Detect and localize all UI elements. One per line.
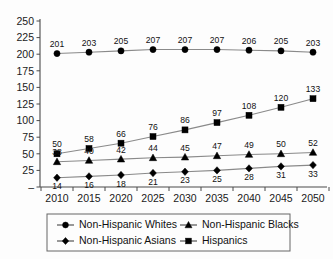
legend-item[interactable]: Hispanics <box>180 234 248 246</box>
data-point-marker-square <box>278 104 284 110</box>
x-axis-tick-label: 2035 <box>205 192 229 204</box>
data-point-label: 14 <box>52 181 62 191</box>
data-point-label: 201 <box>50 39 65 49</box>
x-axis-tick-label: 2010 <box>45 192 69 204</box>
data-point-marker-square <box>214 120 220 126</box>
data-point-marker-square <box>150 134 156 140</box>
y-axis-tick-label: 25 <box>22 164 34 176</box>
data-point-marker-circle <box>63 222 69 228</box>
y-axis-tick-label: 100 <box>16 114 34 126</box>
data-point-label: 21 <box>148 177 158 187</box>
y-axis-tick-label: 150 <box>16 81 34 93</box>
data-point-marker-circle <box>278 48 284 54</box>
data-point-label: 203 <box>82 38 97 48</box>
legend-group: Non-Hispanic WhitesNon-Hispanic BlacksNo… <box>47 214 299 251</box>
y-axis-tick-label: 175 <box>16 65 34 77</box>
data-point-label: 207 <box>210 35 225 45</box>
data-point-marker-circle <box>86 49 92 55</box>
data-point-label: 203 <box>306 38 321 48</box>
y-axis-tick-label: 75 <box>22 131 34 143</box>
x-axis-tick-label: 2015 <box>77 192 101 204</box>
legend-label: Hispanics <box>202 234 248 246</box>
series-group <box>53 46 316 181</box>
x-axis-tick-label: 2050 <box>301 192 325 204</box>
data-point-label: 207 <box>178 35 193 45</box>
legend-label: Non-Hispanic Blacks <box>202 218 299 230</box>
data-point-label: 33 <box>308 169 318 179</box>
data-point-label: 18 <box>116 179 126 189</box>
data-point-label: 86 <box>180 115 190 125</box>
legend-item[interactable]: Non-Hispanic Blacks <box>180 218 299 230</box>
data-point-label: 108 <box>242 101 257 111</box>
legend-item[interactable]: Non-Hispanic Asians <box>57 234 176 246</box>
y-axis-tick-label: 225 <box>16 31 34 43</box>
data-point-marker-circle <box>310 49 316 55</box>
data-point-marker-circle <box>150 46 156 52</box>
data-point-label: 45 <box>180 143 190 153</box>
chart-canvas: –255075100125150175200225250 20102015202… <box>0 0 333 259</box>
x-axis-tick-label: 2030 <box>173 192 197 204</box>
data-point-marker-circle <box>54 50 60 56</box>
legend-label: Non-Hispanic Asians <box>79 234 176 246</box>
y-axis-tick-label: 125 <box>16 98 34 110</box>
data-point-label: 58 <box>84 134 94 144</box>
data-point-label: 133 <box>306 84 321 94</box>
data-point-label: 23 <box>180 175 190 185</box>
data-point-label: 76 <box>148 122 158 132</box>
y-axis-tick-label: 50 <box>22 148 34 160</box>
data-point-marker-square <box>310 96 316 102</box>
data-point-label: 66 <box>116 129 126 139</box>
data-point-label: 207 <box>146 35 161 45</box>
x-axis-tick-label: 2020 <box>109 192 133 204</box>
data-point-label: 44 <box>148 143 158 153</box>
data-point-label: 50 <box>52 139 62 149</box>
data-point-label: 52 <box>308 138 318 148</box>
data-point-label: 49 <box>244 140 254 150</box>
data-point-label: 28 <box>244 172 254 182</box>
data-point-marker-square <box>246 112 252 118</box>
data-point-label: 205 <box>274 36 289 46</box>
data-point-label: 50 <box>276 139 286 149</box>
legend-item[interactable]: Non-Hispanic Whites <box>57 218 177 230</box>
x-axis-tick-label: 2045 <box>269 192 293 204</box>
data-point-label: 47 <box>212 141 222 151</box>
data-point-label: 40 <box>84 146 94 156</box>
data-point-label: 120 <box>274 93 289 103</box>
data-point-label: 16 <box>84 180 94 190</box>
data-point-marker-diamond <box>62 237 68 244</box>
data-point-label: 205 <box>114 36 129 46</box>
y-axis-tick-label: 250 <box>16 15 34 27</box>
population-projection-line-chart: –255075100125150175200225250 20102015202… <box>0 0 333 259</box>
legend-label: Non-Hispanic Whites <box>79 218 177 230</box>
data-point-label: 42 <box>116 145 126 155</box>
data-point-label: 97 <box>212 108 222 118</box>
data-point-marker-circle <box>214 46 220 52</box>
x-axis-tick-label: 2040 <box>237 192 261 204</box>
x-axis-tick-label: 2025 <box>141 192 165 204</box>
y-axis-tick-label: – <box>28 181 34 193</box>
data-point-label: 206 <box>242 36 257 46</box>
data-point-label: 25 <box>212 174 222 184</box>
data-point-marker-circle <box>118 48 124 54</box>
y-axis-tick-label: 200 <box>16 48 34 60</box>
data-point-label: 31 <box>276 170 286 180</box>
data-point-marker-circle <box>182 46 188 52</box>
data-point-marker-circle <box>246 47 252 53</box>
data-point-marker-square <box>186 238 192 244</box>
y-axis-group: –255075100125150175200225250 <box>16 15 40 193</box>
data-point-marker-square <box>182 127 188 133</box>
